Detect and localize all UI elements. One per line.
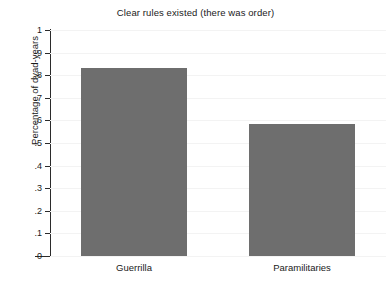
y-tick-mark (45, 188, 50, 189)
y-tick-label: .2 (34, 206, 42, 215)
y-tick-label: 0 (37, 252, 42, 261)
y-tick-mark (45, 211, 50, 212)
y-tick-mark (45, 75, 50, 76)
gridline (50, 256, 386, 257)
y-tick-mark (45, 53, 50, 54)
y-tick-mark (45, 233, 50, 234)
y-tick-mark (45, 120, 50, 121)
gridline (50, 53, 386, 54)
chart-title: Clear rules existed (there was order) (0, 7, 391, 18)
y-tick-label: .7 (34, 93, 42, 102)
y-tick-mark (45, 30, 50, 31)
y-tick-label: .8 (34, 71, 42, 80)
y-tick-label: .4 (34, 161, 42, 170)
y-tick-mark (45, 166, 50, 167)
y-tick-label: .6 (34, 116, 42, 125)
y-tick-mark (45, 256, 50, 257)
plot-area: 0.1.2.3.4.5.6.7.8.91 (50, 30, 386, 256)
y-tick-mark (45, 143, 50, 144)
x-tick-label: Guerrilla (116, 262, 152, 273)
y-tick-mark (45, 98, 50, 99)
bar (81, 68, 187, 256)
y-tick-label: .3 (34, 184, 42, 193)
gridline (50, 30, 386, 31)
y-tick-label: .5 (34, 139, 42, 148)
x-tick-label: Paramilitaries (273, 262, 331, 273)
y-tick-label: .1 (34, 229, 42, 238)
bar (249, 124, 355, 256)
chart-figure: Clear rules existed (there was order) Pe… (0, 0, 391, 282)
y-tick-label: 1 (37, 26, 42, 35)
y-tick-label: .9 (34, 48, 42, 57)
